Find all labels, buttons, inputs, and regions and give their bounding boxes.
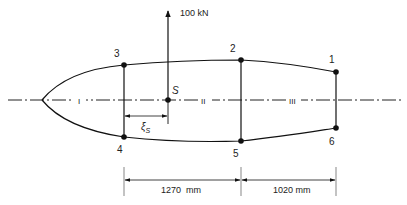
point-label-1: 1 (329, 54, 335, 65)
profile-upper-contour (42, 60, 336, 100)
point-label-4: 4 (117, 144, 123, 155)
point-1 (333, 69, 339, 75)
point-5 (238, 138, 244, 144)
segment-label-1: I (78, 97, 80, 106)
segment-label-2: II (201, 97, 205, 106)
dim-label-1020: 1020 mm (273, 185, 311, 195)
xi-label: ξS (141, 121, 150, 134)
point-2 (238, 57, 244, 63)
point-3 (121, 62, 127, 68)
point-label-2: 2 (230, 43, 236, 54)
dim-label-1270: 1270 mm (161, 185, 201, 195)
point-label-5: 5 (233, 148, 239, 159)
segment-label-3: III (289, 97, 296, 106)
diagram-canvas: 100 kN 3 4 2 5 1 6 S I II III ξS 1270 mm… (0, 0, 407, 205)
point-label-6: 6 (329, 136, 335, 147)
point-4 (121, 134, 127, 140)
centroid-label: S (172, 85, 179, 96)
profile-lower-contour (42, 100, 336, 142)
force-label: 100 kN (180, 8, 209, 18)
point-6 (333, 125, 339, 131)
point-label-3: 3 (114, 48, 120, 59)
